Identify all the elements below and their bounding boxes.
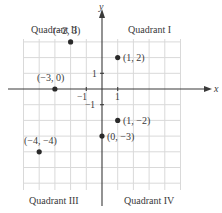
- axes: [8, 12, 206, 206]
- x-axis-arrow-icon: [204, 86, 212, 92]
- y-axis-label: y: [98, 1, 104, 12]
- point-neg3-0: [52, 86, 57, 91]
- tick-label-y-pos: 1: [92, 69, 97, 79]
- point-label: (1, −2): [123, 115, 150, 127]
- point-label: (0, −3): [107, 131, 134, 143]
- point-1-2: [115, 55, 120, 60]
- tick-label-x-neg: −1: [77, 92, 87, 102]
- quadrant-iii-label: Quadrant III: [29, 195, 79, 206]
- point-0-neg3: [99, 134, 104, 139]
- point-neg4-neg4: [37, 149, 42, 154]
- tick-label-x-pos: 1: [115, 92, 120, 102]
- point-neg2-3: [68, 39, 73, 44]
- point-label: (1, 2): [123, 52, 145, 64]
- point-1-neg2: [115, 118, 120, 123]
- quadrant-i-label: Quadrant I: [128, 24, 171, 35]
- quadrant-iv-label: Quadrant IV: [124, 195, 175, 206]
- x-axis-label: x: [213, 83, 219, 94]
- point-label: (−4, −4): [24, 135, 57, 147]
- coordinate-plane-diagram: x y 1 −1 −1 1 Quadrant II Quadrant I Qua…: [0, 0, 222, 213]
- point-label: (−3, 0): [37, 72, 64, 84]
- point-label: (−2, 3): [53, 25, 80, 37]
